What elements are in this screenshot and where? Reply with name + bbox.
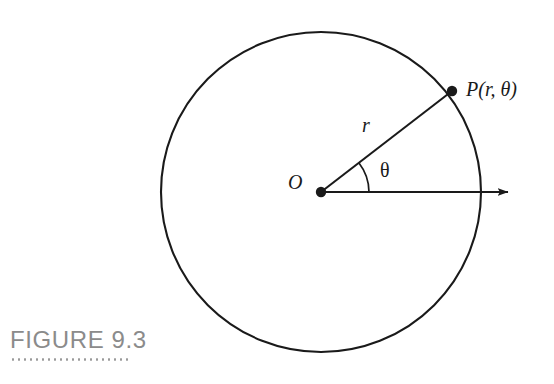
angle-arc: [359, 163, 369, 192]
point-p-label: P(r, θ): [466, 79, 517, 99]
figure-caption-text: FIGURE 9.3: [10, 327, 147, 354]
origin-label: O: [288, 172, 302, 192]
figure-caption-rule: [10, 358, 128, 361]
radius-label: r: [362, 115, 370, 135]
figure-caption: FIGURE 9.3: [10, 327, 147, 361]
angle-label: θ: [380, 160, 390, 180]
origin-point: [316, 187, 326, 197]
figure-page: O r θ P(r, θ) FIGURE 9.3: [0, 0, 554, 384]
point-P-marker: [447, 86, 457, 96]
